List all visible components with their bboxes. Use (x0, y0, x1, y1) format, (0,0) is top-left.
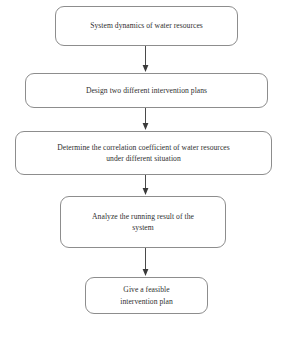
flow-node-label: System dynamics of water resources (90, 20, 203, 32)
flow-node-correlation-coefficient: Determine the correlation coefficient of… (15, 131, 272, 175)
flow-node-analyze-result: Analyze the running result of the system (60, 196, 226, 248)
arrow-connector-1 (139, 46, 152, 73)
arrow-connector-4 (139, 248, 152, 277)
flow-node-label: Give a feasible intervention plan (120, 284, 173, 307)
flow-node-design-plans: Design two different intervention plans (25, 73, 268, 108)
flowchart-diagram: System dynamics of water resources Desig… (0, 0, 286, 339)
flow-node-label: Design two different intervention plans (86, 85, 207, 97)
flow-node-label: Analyze the running result of the system (92, 211, 194, 234)
arrow-connector-2 (139, 108, 152, 131)
flow-node-system-dynamics: System dynamics of water resources (55, 6, 238, 46)
arrow-connector-3 (139, 175, 152, 196)
flow-node-label: Determine the correlation coefficient of… (57, 142, 230, 165)
flow-node-feasible-plan: Give a feasible intervention plan (85, 277, 208, 314)
